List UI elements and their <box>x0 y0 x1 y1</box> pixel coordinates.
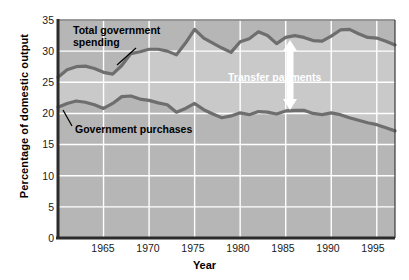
plot-area <box>0 0 409 280</box>
transfer-payments-label: Transfer payments <box>228 72 321 84</box>
total-government-spending-label: Total government spending <box>73 25 160 48</box>
government-purchases-label: Government purchases <box>75 124 192 136</box>
chart-figure: Percentage of domestic output Year 35 30… <box>0 0 409 280</box>
